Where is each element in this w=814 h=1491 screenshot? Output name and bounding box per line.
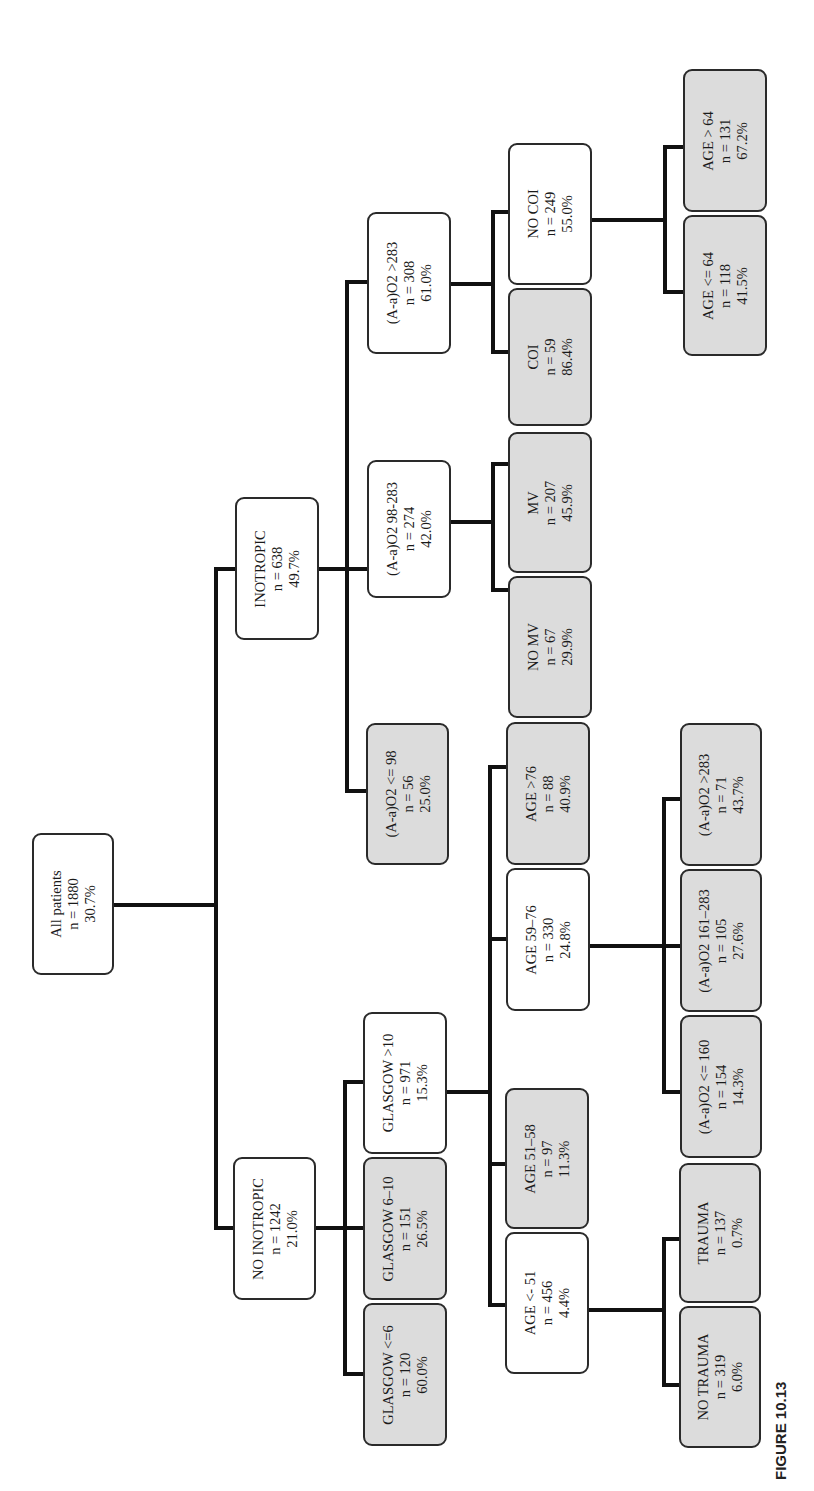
connector	[318, 567, 348, 571]
node-pct: 4.4%	[556, 1271, 573, 1336]
node-label: INOTROPIC	[252, 530, 269, 607]
node-n: n = 249	[542, 189, 559, 239]
node-aao2-161-283: (A-a)O2 161–283n = 10527.6%	[680, 869, 762, 1012]
connector	[592, 218, 666, 222]
node-label: GLASGOW >10	[380, 1034, 397, 1133]
node-n: n = 207	[542, 480, 559, 524]
connector	[491, 462, 495, 592]
node-n: n = 67	[542, 623, 559, 671]
connector	[343, 1226, 365, 1230]
figure-label: FIGURE 10.13	[772, 1382, 789, 1480]
node-label: COI	[525, 338, 542, 375]
node-pct: 21.0%	[283, 1178, 300, 1280]
node-glasgow-le6: GLASGOW <=6n = 12060.0%	[363, 1303, 447, 1446]
node-pct: 6.0%	[729, 1333, 746, 1420]
connector	[345, 567, 367, 571]
node-pct: 29.9%	[559, 623, 576, 671]
node-n: n = 131	[717, 111, 734, 171]
node-pct: 55.0%	[559, 189, 576, 239]
node-n: n = 105	[713, 889, 730, 993]
node-label: AGE 51–58	[522, 1124, 539, 1194]
node-pct: 14.3%	[730, 1039, 747, 1133]
node-age-59-76: AGE 59–76n = 33024.8%	[506, 868, 590, 1011]
node-n: n = 120	[397, 1325, 414, 1424]
node-pct: 86.4%	[559, 338, 576, 375]
node-label: (A-a)O2 <= 160	[696, 1039, 713, 1133]
node-age-51-58: AGE 51–58n = 9711.3%	[505, 1088, 589, 1229]
node-aao2-le160: (A-a)O2 <= 160n = 15414.3%	[680, 1015, 762, 1158]
node-label: GLASGOW <=6	[380, 1325, 397, 1424]
node-label: NO TRAUMA	[695, 1333, 712, 1420]
node-n: n = 118	[717, 252, 734, 320]
node-n: n = 319	[712, 1333, 729, 1420]
node-label: TRAUMA	[695, 1202, 712, 1265]
connector	[663, 290, 685, 294]
connector	[488, 765, 492, 1307]
node-pct: 25.0%	[416, 750, 433, 837]
connector	[450, 282, 495, 286]
node-age-le64: AGE <= 64n = 11841.5%	[683, 215, 767, 356]
connector	[663, 145, 667, 294]
node-mv: MVn = 20745.9%	[508, 432, 592, 573]
node-aao2-gt283: (A-a)O2 >283n = 30861.0%	[367, 212, 451, 354]
node-label: (A-a)O2 >283	[696, 753, 713, 836]
node-pct: 43.7%	[730, 753, 747, 836]
node-label: AGE <- 51	[522, 1271, 539, 1336]
connector	[491, 588, 509, 592]
node-label: NO COI	[525, 189, 542, 239]
node-pct: 67.2%	[734, 111, 751, 171]
node-age-gt76: AGE >76n = 8840.9%	[506, 722, 590, 865]
node-label: MV	[525, 480, 542, 524]
node-pct: 24.8%	[557, 905, 574, 975]
connector	[662, 944, 682, 948]
node-label: AGE > 64	[700, 111, 717, 171]
node-inotropic: INOTROPICn = 63849.7%	[235, 497, 319, 640]
connector	[491, 350, 509, 354]
node-n: n = 97	[539, 1124, 556, 1194]
node-no-trauma: NO TRAUMAn = 3196.0%	[679, 1306, 761, 1448]
node-pct: 60.0%	[414, 1325, 431, 1424]
connector	[491, 210, 495, 354]
node-label: AGE <= 64	[700, 252, 717, 320]
decision-tree: All patientsn = 188030.7% INOTROPICn = 6…	[0, 0, 814, 1491]
node-no-coi: NO COIn = 24955.0%	[508, 143, 592, 285]
node-n: n = 154	[713, 1039, 730, 1133]
connector	[662, 1237, 666, 1387]
node-coi: COIn = 5986.4%	[508, 288, 592, 426]
node-age-gt64: AGE > 64n = 13167.2%	[683, 69, 767, 212]
node-no-mv: NO MVn = 6729.9%	[508, 576, 592, 718]
node-label: NO MV	[525, 623, 542, 671]
node-n: n = 971	[397, 1034, 414, 1133]
node-pct: 61.0%	[418, 242, 435, 325]
connector	[214, 567, 218, 1230]
node-label: All patients	[48, 870, 65, 937]
node-label: (A-a)O2 >283	[384, 242, 401, 325]
connector	[345, 280, 349, 793]
node-trauma: TRAUMAn = 1370.7%	[679, 1163, 761, 1303]
connector	[450, 520, 495, 524]
node-label: (A-a)O2 <= 98	[382, 750, 399, 837]
node-n: n = 59	[542, 338, 559, 375]
node-n: n = 638	[269, 530, 286, 607]
connector	[488, 937, 508, 941]
node-pct: 49.7%	[286, 530, 303, 607]
connector	[588, 1308, 666, 1312]
node-n: n = 330	[540, 905, 557, 975]
node-n: n = 56	[399, 750, 416, 837]
node-n: n = 88	[540, 765, 557, 821]
node-label: AGE >76	[523, 765, 540, 821]
node-glasgow-6-10: GLASGOW 6–10n = 15126.5%	[363, 1157, 447, 1300]
node-age-le51: AGE <- 51n = 4564.4%	[505, 1232, 589, 1374]
node-glasgow-gt10: GLASGOW >10n = 97115.3%	[363, 1012, 447, 1154]
node-pct: 30.7%	[82, 870, 99, 937]
node-pct: 42.0%	[418, 482, 435, 576]
node-aao2-98-283: (A-a)O2 98-283n = 27442.0%	[367, 460, 451, 598]
node-aao2-le98: (A-a)O2 <= 98n = 5625.0%	[366, 723, 449, 865]
node-pct: 27.6%	[730, 889, 747, 993]
node-aao2-gt283-b: (A-a)O2 >283n = 7143.7%	[680, 723, 762, 866]
node-n: n = 274	[401, 482, 418, 576]
connector	[488, 765, 508, 769]
connector	[345, 789, 367, 793]
node-no-inotropic: NO INOTROPICn = 124221.0%	[233, 1157, 316, 1300]
node-label: (A-a)O2 161–283	[696, 889, 713, 993]
